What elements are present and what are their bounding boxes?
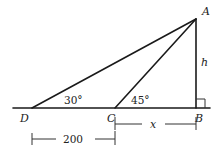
label-B: B <box>194 112 203 125</box>
segment-DA <box>32 19 196 108</box>
dimension-x: x <box>115 117 196 131</box>
angle-D-label: 30° <box>64 94 83 106</box>
triangle-diagram: A B C D 30° 45° h x 200 <box>0 0 221 151</box>
segment-CA <box>115 19 196 108</box>
label-D: D <box>19 112 29 125</box>
right-angle-marker <box>196 99 205 108</box>
length-200-label: 200 <box>63 133 83 145</box>
dimension-200: 200 <box>32 131 115 145</box>
length-h-label: h <box>201 56 208 69</box>
label-A: A <box>201 5 210 18</box>
length-x-label: x <box>150 118 157 131</box>
angle-C-label: 45° <box>131 94 150 106</box>
